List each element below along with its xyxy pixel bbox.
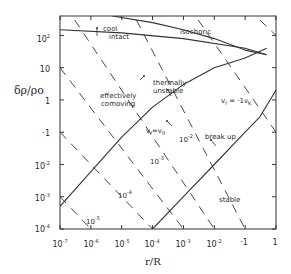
y-tick-1e-3: 10-3 xyxy=(20,192,50,203)
series-line-2 xyxy=(60,30,267,55)
series-line-1 xyxy=(153,90,276,229)
x-tick-1e-6: 10-6 xyxy=(79,238,103,249)
label-cool: cool xyxy=(103,26,117,33)
label-contour-1e-4: 10-4 xyxy=(118,189,132,200)
series-line-7 xyxy=(75,20,215,229)
label-isochoric: isochoric xyxy=(180,29,211,36)
y-tick-1e2: 102 xyxy=(20,33,50,44)
label-contour-1e-2: 10-2 xyxy=(179,133,193,144)
x-axis-title: r/R xyxy=(145,256,161,267)
x-tick-1e-2: 10-2 xyxy=(202,238,226,249)
series-line-9 xyxy=(198,20,276,132)
y-tick-1e-2: 10-2 xyxy=(20,160,50,171)
label-vf-vk: vf = ·1vK xyxy=(221,98,251,107)
label-thermally: thermally xyxy=(153,80,186,87)
y-tick-1e-4: 10-4 xyxy=(20,223,50,234)
label-comoving: comoving xyxy=(101,101,135,108)
label-stable: stable xyxy=(219,197,240,204)
series-line-10 xyxy=(260,20,276,35)
label-intact: intact xyxy=(109,34,129,41)
label-contour-1e-3: 10-3 xyxy=(150,155,164,166)
label-break-up: break up xyxy=(205,134,236,141)
series-line-5 xyxy=(60,132,153,229)
label-contour-1e-5: 10-5 xyxy=(86,215,100,226)
x-tick-1e-7: 10-7 xyxy=(48,238,72,249)
label-effectively: effectively xyxy=(100,93,137,100)
x-tick-1: 1 xyxy=(263,238,287,247)
x-tick-0.1: ·1 xyxy=(232,238,256,247)
label-unstable: unstable xyxy=(153,88,183,95)
x-tick-1e-4: 10-4 xyxy=(140,238,164,249)
y-tick-0.1: ·1 xyxy=(20,129,50,138)
x-tick-1e-5: 10-5 xyxy=(110,238,134,249)
y-axis-title: δρ/ρo xyxy=(14,84,44,97)
label-vf-v0: vf=v0 xyxy=(146,128,165,137)
y-tick-10: 10 xyxy=(20,65,50,74)
x-tick-1e-3: 10-3 xyxy=(171,238,195,249)
y-tick-1: 1 xyxy=(20,97,50,106)
